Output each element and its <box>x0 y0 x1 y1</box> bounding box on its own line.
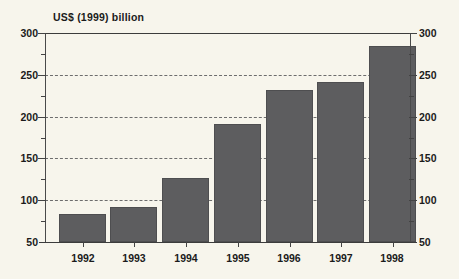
plot-area <box>45 33 411 242</box>
y-tick-left-100 <box>38 200 46 201</box>
x-axis-label-1992: 1992 <box>58 252 108 264</box>
x-axis-line <box>39 242 417 243</box>
bar-1994 <box>162 178 209 242</box>
x-axis-label-1998: 1998 <box>367 252 417 264</box>
y-tick-right-150 <box>409 158 417 159</box>
x-tick-1997 <box>341 242 342 247</box>
y-axis-left-label-300: 300 <box>0 27 38 39</box>
y-tick-right-250 <box>409 75 417 76</box>
y-tick-right-225 <box>409 96 414 97</box>
y-axis-left-label-100: 100 <box>0 194 38 206</box>
y-tick-left-225 <box>41 96 46 97</box>
x-axis-label-1996: 1996 <box>264 252 314 264</box>
y-tick-left-175 <box>41 138 46 139</box>
y-tick-left-200 <box>38 117 46 118</box>
y-tick-right-175 <box>409 138 414 139</box>
bar-1995 <box>214 124 261 242</box>
x-axis-label-1993: 1993 <box>109 252 159 264</box>
x-axis-label-1995: 1995 <box>213 252 263 264</box>
chart-figure: US$ (1999) billion <box>0 0 459 279</box>
y-tick-left-150 <box>38 158 46 159</box>
x-axis-label-1994: 1994 <box>161 252 211 264</box>
y-axis-right-label-300: 300 <box>419 27 457 39</box>
x-axis-label-1997: 1997 <box>316 252 366 264</box>
chart-title: US$ (1999) billion <box>53 11 144 23</box>
y-tick-right-200 <box>409 117 417 118</box>
y-tick-right-125 <box>409 179 414 180</box>
y-tick-left-275 <box>41 54 46 55</box>
y-axis-right-label-200: 200 <box>419 111 457 123</box>
y-tick-right-75 <box>409 221 414 222</box>
y-axis-right-label-50: 50 <box>419 236 457 248</box>
y-axis-right-label-250: 250 <box>419 69 457 81</box>
x-tick-1995 <box>238 242 239 247</box>
y-tick-right-100 <box>409 200 417 201</box>
x-tick-1993 <box>134 242 135 247</box>
y-tick-left-300 <box>38 33 46 34</box>
y-axis-right-label-150: 150 <box>419 152 457 164</box>
y-tick-left-125 <box>41 179 46 180</box>
y-axis-right-label-100: 100 <box>419 194 457 206</box>
x-tick-1998 <box>393 242 394 247</box>
bar-1993 <box>110 207 157 242</box>
gridline-250 <box>45 75 411 76</box>
x-tick-1996 <box>290 242 291 247</box>
y-axis-left-label-150: 150 <box>0 152 38 164</box>
plot-top-border <box>45 33 411 34</box>
y-tick-right-275 <box>409 54 414 55</box>
bar-1996 <box>266 90 313 242</box>
y-axis-left-label-50: 50 <box>0 236 38 248</box>
bar-1992 <box>59 214 106 242</box>
y-axis-left-label-200: 200 <box>0 111 38 123</box>
bar-1997 <box>317 82 364 242</box>
x-tick-1992 <box>83 242 84 247</box>
y-tick-left-75 <box>41 221 46 222</box>
y-tick-left-250 <box>38 75 46 76</box>
y-axis-left-label-250: 250 <box>0 69 38 81</box>
y-tick-right-300 <box>409 33 417 34</box>
x-tick-1994 <box>186 242 187 247</box>
